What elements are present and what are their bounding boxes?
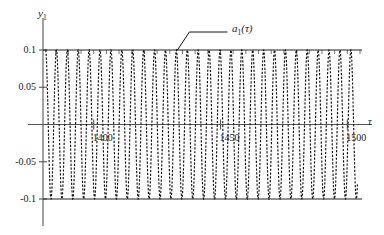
x-tick-label: 1500 xyxy=(346,133,366,143)
series-annotation-arg: (τ) xyxy=(241,22,252,34)
y-tick-label: -0.1 xyxy=(20,194,36,204)
axes-group xyxy=(28,18,372,226)
y-tick-label: -0.05 xyxy=(15,157,36,167)
chart-plot-area xyxy=(0,0,384,235)
chart-figure: y1 τ a1(τ) 0.10.05-0.05-0.1 140014501500 xyxy=(0,0,384,235)
y-axis-label: y1 xyxy=(38,8,47,22)
x-tick-label: 1450 xyxy=(220,133,240,143)
y-tick-label: 0.1 xyxy=(24,45,37,55)
series-annotation-label: a1(τ) xyxy=(232,22,253,37)
y-tick-label: 0.05 xyxy=(19,82,37,92)
y-axis-label-subscript: 1 xyxy=(43,13,47,22)
x-tick-label: 1400 xyxy=(93,133,113,143)
annotation-leader-line xyxy=(177,32,227,50)
annotation-leader-polyline xyxy=(177,32,227,50)
x-axis-label: τ xyxy=(368,117,372,127)
